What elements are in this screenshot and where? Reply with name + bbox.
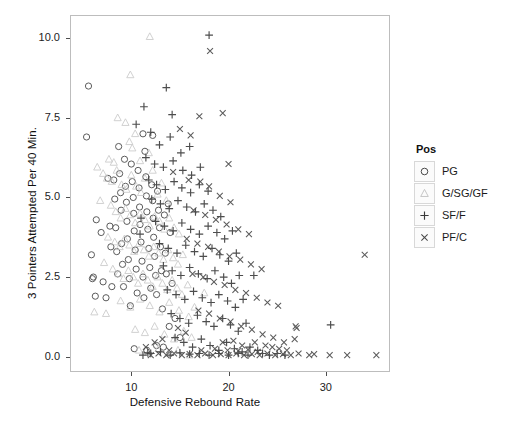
data-point xyxy=(163,271,169,277)
data-point xyxy=(169,227,177,235)
data-point xyxy=(239,343,245,349)
legend-item-label: PF/C xyxy=(442,231,467,243)
data-point xyxy=(344,352,350,358)
data-point xyxy=(159,280,166,287)
data-point xyxy=(238,323,244,329)
x-tick-label: 20 xyxy=(204,381,254,393)
data-point xyxy=(107,223,113,229)
data-point xyxy=(114,114,121,121)
data-point xyxy=(252,339,258,345)
data-point xyxy=(217,213,225,221)
data-point xyxy=(196,113,202,119)
x-tick-label: 30 xyxy=(301,381,351,393)
data-point xyxy=(292,336,298,342)
cross-icon xyxy=(414,227,435,248)
data-point xyxy=(188,171,196,179)
data-point xyxy=(197,335,205,343)
data-point xyxy=(215,291,223,299)
data-point xyxy=(263,343,269,349)
data-point xyxy=(153,291,159,297)
y-tick-label: 10.0 xyxy=(14,31,60,43)
data-point xyxy=(141,329,148,336)
data-point xyxy=(230,338,236,344)
data-point xyxy=(269,344,275,350)
legend-item-pfc[interactable]: PF/C xyxy=(414,226,510,248)
legend-item-gsggf[interactable]: G/SG/GF xyxy=(414,182,510,204)
data-point xyxy=(235,226,241,232)
data-point xyxy=(248,261,254,267)
data-point xyxy=(196,163,204,171)
data-point xyxy=(140,103,148,111)
data-point xyxy=(123,199,129,205)
data-point xyxy=(327,321,335,329)
data-point xyxy=(144,209,150,215)
x-tick-label: 10 xyxy=(106,381,156,393)
data-point xyxy=(147,128,155,136)
data-point xyxy=(93,217,99,223)
data-point xyxy=(206,183,212,189)
data-point xyxy=(166,323,172,329)
data-point xyxy=(156,240,164,248)
legend-item-sff[interactable]: SF/F xyxy=(414,204,510,226)
data-point xyxy=(362,252,368,258)
x-tick-mark xyxy=(326,372,327,376)
legend-title: Pos xyxy=(416,143,510,155)
legend-entries: PGG/SG/GFSF/FPF/C xyxy=(414,160,510,248)
data-point xyxy=(223,338,231,346)
data-point xyxy=(103,295,109,301)
data-point xyxy=(151,323,158,330)
data-point xyxy=(100,259,107,266)
data-point xyxy=(94,163,101,170)
data-point xyxy=(212,346,218,352)
data-point xyxy=(232,287,238,293)
data-point xyxy=(207,48,213,54)
data-point xyxy=(130,194,136,200)
data-point xyxy=(83,134,89,140)
data-point xyxy=(157,200,165,208)
data-point xyxy=(122,119,129,126)
data-point xyxy=(213,217,219,223)
data-point xyxy=(264,300,270,306)
data-point xyxy=(204,222,212,230)
data-point xyxy=(121,156,127,162)
data-point xyxy=(179,251,186,258)
data-point xyxy=(197,179,203,185)
data-point xyxy=(235,272,243,280)
data-point xyxy=(175,325,181,331)
data-point xyxy=(88,252,94,258)
data-point xyxy=(92,293,98,299)
data-point xyxy=(296,351,302,357)
data-point xyxy=(161,212,167,218)
data-point xyxy=(177,272,185,280)
data-point xyxy=(226,161,232,167)
data-point xyxy=(170,178,178,186)
data-point xyxy=(246,231,252,237)
data-point xyxy=(228,199,234,205)
data-point xyxy=(207,299,215,307)
data-point xyxy=(169,157,177,165)
data-point xyxy=(206,311,212,317)
data-point xyxy=(373,352,379,358)
data-point xyxy=(260,331,266,337)
data-points-layer xyxy=(71,16,389,371)
data-point xyxy=(175,307,182,314)
data-point xyxy=(109,284,115,290)
legend-item-pg[interactable]: PG xyxy=(414,160,510,182)
data-point xyxy=(163,197,170,204)
data-point xyxy=(178,184,186,192)
data-point xyxy=(139,258,145,264)
data-point xyxy=(311,351,317,357)
data-point xyxy=(129,178,135,184)
data-point xyxy=(206,342,214,350)
data-point xyxy=(120,284,126,290)
data-point xyxy=(211,267,219,275)
data-point xyxy=(170,169,176,175)
triangle-icon xyxy=(414,183,435,204)
data-point xyxy=(259,266,265,272)
data-point xyxy=(174,260,181,267)
data-point xyxy=(232,249,240,257)
data-point xyxy=(146,33,153,40)
data-point xyxy=(185,319,193,327)
data-point xyxy=(227,253,233,259)
data-point xyxy=(142,154,150,162)
